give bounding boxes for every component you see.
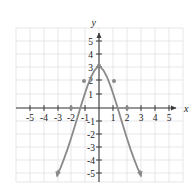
curve-point-minus-one	[82, 79, 86, 83]
x-tick-label: 2	[125, 113, 130, 123]
coordinate-plane-chart: -5 -4 -3 -2 -1 1 2 3 4 5 5 4 3 2 1 -1 -2…	[0, 0, 196, 196]
y-tick-label: -2	[87, 130, 95, 140]
y-tick-label: 5	[88, 37, 93, 47]
x-tick-label: 4	[153, 113, 158, 123]
y-tick-label: -3	[87, 143, 95, 153]
x-tick-label: 3	[139, 113, 144, 123]
x-axis-label: x	[183, 103, 189, 114]
y-axis-label: y	[91, 17, 97, 28]
plot-background	[16, 28, 184, 182]
x-tick-label: -4	[40, 113, 48, 123]
y-tick-label: 3	[88, 63, 93, 73]
x-tick-label: -2	[67, 113, 75, 123]
y-tick-label: 1	[88, 90, 93, 100]
y-tick-label: -1	[87, 117, 95, 127]
vertex-point	[97, 64, 101, 68]
y-tick-label: 4	[88, 50, 93, 60]
y-tick-label: -4	[87, 156, 95, 166]
x-intercept-point-left	[69, 106, 73, 110]
x-tick-label: 5	[167, 113, 172, 123]
x-intercept-point-right	[125, 106, 129, 110]
y-tick-label: -5	[87, 169, 95, 179]
x-tick-label: -5	[26, 113, 34, 123]
curve-point-plus-one	[112, 79, 116, 83]
x-tick-label: -3	[54, 113, 62, 123]
graph-figure: -5 -4 -3 -2 -1 1 2 3 4 5 5 4 3 2 1 -1 -2…	[0, 0, 196, 196]
x-tick-label: 1	[111, 113, 116, 123]
